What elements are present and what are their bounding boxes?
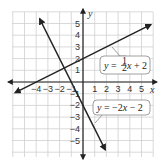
y-tick-label: 1 [75,65,80,75]
y-tick-label: −3 [70,112,80,122]
y-tick-label: 4 [75,30,80,40]
y-tick-label: 3 [75,42,80,52]
y-axis-label: y [87,8,93,19]
y-tick-label: −2 [70,100,80,110]
x-tick-label: 5 [139,84,144,94]
y-tick-label: 5 [75,19,80,29]
x-tick-label: −2 [54,84,64,94]
equation-2: y = −2x − 2 [96,102,143,113]
x-tick-label: −4 [31,84,41,94]
x-tick-label: 1 [92,84,97,94]
y-tick-label: −5 [70,136,80,146]
x-tick-label: 3 [116,84,121,94]
coordinate-plane-chart: xy −4−3−2−11234554321−1−2−3−4−5 y = 12x … [0,0,161,163]
x-axis-label: x [149,84,155,95]
equation-1-suffix: x + 2 [126,60,147,71]
x-tick-label: −3 [43,84,53,94]
x-tick-label: 4 [127,84,132,94]
x-tick-label: 2 [104,84,109,94]
y-tick-label: −4 [70,124,80,134]
equation-1: y = [103,60,117,71]
